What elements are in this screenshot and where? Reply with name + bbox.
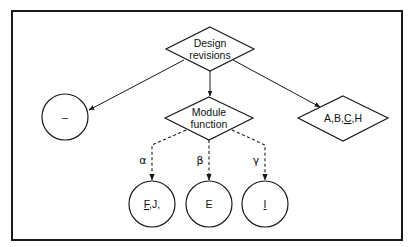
node-label-line2: revisions: [189, 49, 230, 61]
edge-design-to-abch: [233, 60, 320, 107]
diagram-canvas: α β γ Design revisions Module function A…: [0, 0, 408, 247]
edge-label-alpha: α: [139, 154, 146, 167]
edge-module-to-fj: [152, 130, 186, 180]
node-label: –: [62, 111, 68, 123]
node-e-circle: E: [186, 181, 232, 227]
node-label: I: [264, 198, 267, 210]
node-dash-circle: –: [42, 94, 88, 140]
label-post: ,H: [351, 112, 362, 124]
label-pre: A,B,: [324, 112, 344, 124]
node-label: E: [205, 198, 212, 210]
node-label: A,B,C,H: [324, 112, 362, 124]
edge-module-to-i: [232, 130, 265, 180]
edge-label-gamma: γ: [253, 154, 260, 167]
edge-label-beta: β: [196, 154, 203, 167]
node-module-function: Module function: [165, 97, 253, 140]
node-label: F,J,: [144, 198, 160, 210]
label-post: ,J,: [149, 198, 160, 210]
node-label-line1: Design: [194, 37, 227, 49]
node-i-circle: I: [242, 181, 288, 227]
node-label-line1: Module: [192, 106, 227, 118]
node-fj-circle: F,J,: [129, 181, 175, 227]
edge-design-to-dash: [89, 60, 184, 110]
node-label-line2: function: [191, 118, 228, 130]
